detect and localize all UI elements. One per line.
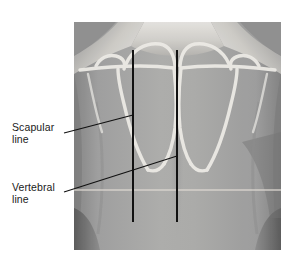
back-photograph-image (74, 22, 281, 250)
scapular-line-label: Scapular line (12, 122, 54, 145)
back-photograph (74, 22, 281, 250)
vertebral-line-label: Vertebral line (12, 182, 55, 205)
anatomy-figure: Scapular line Vertebral line (0, 0, 290, 263)
